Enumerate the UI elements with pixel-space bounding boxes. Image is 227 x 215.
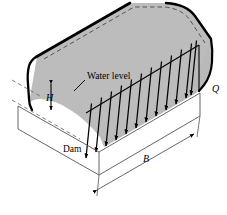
dam-diagram-figure: H Water level Dam B Q [0, 0, 227, 215]
dam-figure-svg: H Water level Dam B Q [0, 0, 227, 215]
width-label: B [143, 153, 149, 164]
dam-label: Dam [63, 144, 82, 154]
height-label: H [45, 92, 54, 103]
water-level-label: Water level [87, 71, 131, 81]
flow-label: Q [212, 83, 220, 94]
